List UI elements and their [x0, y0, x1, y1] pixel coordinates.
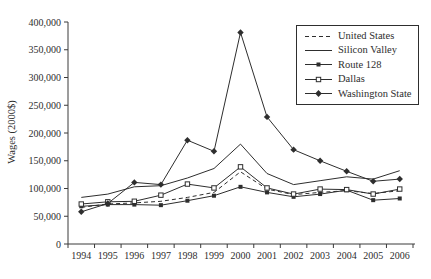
- marker-route-128: [265, 190, 269, 194]
- marker-dallas: [79, 202, 83, 206]
- legend-label: Washington State: [338, 89, 412, 100]
- marker-washington-state: [237, 29, 243, 35]
- x-tick-label: 1998: [177, 250, 197, 261]
- legend-sample-filled-diamond-line: [304, 89, 333, 98]
- legend-sample-dashed-line: [304, 32, 333, 41]
- legend-item-washington-state: Washington State: [304, 89, 416, 100]
- marker-washington-state: [397, 176, 403, 182]
- marker-washington-state: [158, 181, 164, 187]
- legend-label: Dallas: [338, 74, 365, 85]
- legend-sample-solid-line: [304, 46, 333, 55]
- x-tick-label: 1996: [124, 250, 144, 261]
- marker-route-128: [398, 196, 402, 200]
- marker-dallas: [398, 187, 402, 191]
- marker-dallas: [212, 186, 216, 190]
- y-tick-label: 0: [56, 239, 61, 250]
- marker-route-128: [212, 194, 216, 198]
- x-tick-label: 2005: [363, 250, 383, 261]
- series-line-route-128: [81, 187, 399, 207]
- y-tick-label: 50,000: [34, 211, 62, 222]
- y-tick-label: 200,000: [29, 128, 62, 139]
- marker-route-128: [318, 192, 322, 196]
- marker-washington-state: [78, 209, 84, 215]
- x-tick-label: 2003: [310, 250, 330, 261]
- marker-dallas: [344, 187, 348, 191]
- marker-washington-state: [211, 148, 217, 154]
- legend-label: Route 128: [338, 60, 381, 71]
- marker-dallas: [318, 187, 322, 191]
- y-tick-label: 400,000: [29, 17, 62, 28]
- marker-route-128: [185, 199, 189, 203]
- x-tick-label: 2000: [231, 250, 251, 261]
- legend-label: Silicon Valley: [338, 45, 397, 56]
- x-tick-label: 1997: [151, 250, 171, 261]
- y-tick-label: 100,000: [29, 183, 62, 194]
- legend-label: United States: [338, 31, 394, 42]
- marker-dallas: [185, 182, 189, 186]
- legend-sample-open-square-line: [304, 75, 333, 84]
- legend-item-united-states: United States: [304, 31, 416, 42]
- x-tick-label: 1999: [204, 250, 224, 261]
- x-tick-label: 1995: [98, 250, 118, 261]
- x-tick-label: 2004: [337, 250, 357, 261]
- marker-dallas: [371, 192, 375, 196]
- y-tick-label: 350,000: [29, 44, 62, 55]
- y-tick-label: 300,000: [29, 72, 62, 83]
- y-axis-title: Wages (2000$): [6, 100, 17, 164]
- legend-sample-filled-square-line: [304, 60, 333, 69]
- marker-route-128: [371, 198, 375, 202]
- marker-dallas: [238, 165, 242, 169]
- marker-washington-state: [184, 137, 190, 143]
- marker-dallas: [265, 186, 269, 190]
- legend-item-route-128: Route 128: [304, 60, 416, 71]
- marker-dallas: [132, 199, 136, 203]
- marker-route-128: [159, 203, 163, 207]
- y-tick-label: 250,000: [29, 100, 62, 111]
- marker-dallas: [159, 193, 163, 197]
- x-tick-label: 2002: [284, 250, 304, 261]
- legend-item-silicon-valley: Silicon Valley: [304, 45, 416, 56]
- x-tick-label: 2006: [390, 250, 410, 261]
- marker-dallas: [291, 192, 295, 196]
- x-tick-label: 2001: [257, 250, 277, 261]
- marker-washington-state: [343, 168, 349, 174]
- series-line-silicon-valley: [81, 144, 399, 197]
- marker-washington-state: [317, 158, 323, 164]
- marker-route-128: [239, 185, 243, 189]
- y-tick-label: 150,000: [29, 155, 62, 166]
- legend-item-dallas: Dallas: [304, 74, 416, 85]
- wages-chart-figure: 050,000100,000150,000200,000250,000300,0…: [0, 0, 431, 279]
- chart-legend: United States Silicon Valley Route 128 D…: [296, 25, 419, 105]
- x-tick-label: 1994: [71, 250, 91, 261]
